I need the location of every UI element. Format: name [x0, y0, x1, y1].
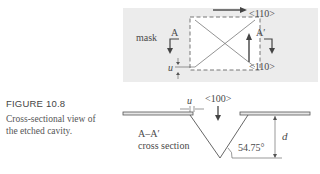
mask-layer-right [240, 112, 310, 115]
angle-arc [228, 148, 232, 158]
section-start-label: A [171, 27, 179, 38]
top-view: mask A A′ <110> <110> u [123, 7, 318, 82]
direction-top-label: <110> [249, 8, 275, 19]
cross-offset-label: u [187, 95, 192, 106]
depth-arrow-up-icon [273, 116, 277, 120]
mask-layer-left [123, 112, 193, 115]
section-end-label: A′ [256, 27, 265, 38]
section-label-line-2: cross section [138, 140, 189, 151]
mask-label: mask [136, 32, 157, 43]
angle-label: 54.75° [238, 142, 265, 153]
top-offset-label: u [168, 62, 173, 73]
cross-section-view: u <100> A–A′ cross section 54.75° d [123, 93, 310, 158]
section-label-line-1: A–A′ [138, 128, 160, 139]
direction-100-label: <100> [205, 93, 232, 104]
direction-bottom-label: <110> [249, 61, 275, 72]
depth-label: d [282, 130, 288, 142]
direction-100-arrowhead-icon [215, 115, 221, 121]
etched-cavity-diagram: mask A A′ <110> <110> u u [0, 0, 320, 174]
depth-arrow-down-icon [273, 154, 277, 158]
